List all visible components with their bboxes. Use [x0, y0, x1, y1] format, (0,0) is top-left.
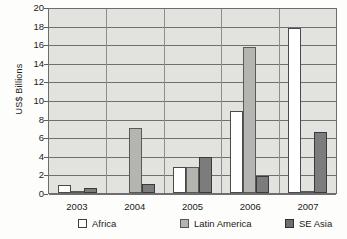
bar-africa-2007[interactable] — [288, 28, 301, 193]
plot-area — [48, 8, 337, 194]
legend-swatch-se-asia — [285, 219, 294, 228]
bar-groups — [49, 9, 336, 193]
bar-seasia-2005[interactable] — [199, 157, 212, 193]
y-tick-label: 10 — [26, 96, 44, 105]
y-tick-label: 16 — [26, 40, 44, 49]
legend-label-se-asia: SE Asia — [299, 218, 332, 229]
bar-africa-2006[interactable] — [230, 111, 243, 193]
y-tick-label: 14 — [26, 59, 44, 68]
y-tick-mark — [44, 64, 48, 65]
legend-swatch-africa — [78, 219, 87, 228]
y-tick-mark — [44, 82, 48, 83]
legend-label-latin-america: Latin America — [194, 218, 252, 229]
bar-seasia-2007[interactable] — [314, 132, 327, 193]
bar-group — [221, 9, 278, 193]
y-tick-label: 8 — [26, 115, 44, 124]
x-tick-label: 2006 — [221, 196, 279, 212]
bar-group — [49, 9, 106, 193]
bar-seasia-2004[interactable] — [142, 184, 155, 193]
bar-africa-2005[interactable] — [173, 167, 186, 193]
bar-latin-2003[interactable] — [71, 191, 84, 193]
y-tick-label: 20 — [26, 3, 44, 12]
y-tick-mark — [44, 194, 48, 195]
bar-seasia-2006[interactable] — [256, 176, 269, 193]
y-tick-label: 12 — [26, 77, 44, 86]
bar-latin-2007[interactable] — [301, 191, 314, 193]
y-tick-mark — [44, 175, 48, 176]
legend-item-africa: Africa — [78, 218, 116, 229]
bar-latin-2006[interactable] — [243, 47, 256, 193]
x-tick-label: 2007 — [279, 196, 337, 212]
bar-africa-2003[interactable] — [58, 185, 71, 193]
y-tick-mark — [44, 8, 48, 9]
chart-figure: US$ Billions 20181614121086420 200320042… — [0, 0, 347, 239]
y-tick-label: 0 — [26, 189, 44, 198]
y-tick-label: 18 — [26, 22, 44, 31]
x-tick-label: 2004 — [106, 196, 164, 212]
legend-label-africa: Africa — [92, 218, 116, 229]
y-tick-mark — [44, 101, 48, 102]
y-axis-title: US$ Billions — [14, 44, 24, 134]
gridline — [49, 194, 336, 195]
bar-group — [279, 9, 336, 193]
x-tick-label: 2003 — [48, 196, 106, 212]
legend-item-latin-america: Latin America — [180, 218, 252, 229]
y-tick-label: 4 — [26, 152, 44, 161]
y-tick-mark — [44, 45, 48, 46]
x-axis-ticks: 20032004200520062007 — [48, 196, 337, 212]
bar-group — [164, 9, 221, 193]
bar-latin-2004[interactable] — [129, 128, 142, 193]
y-tick-mark — [44, 157, 48, 158]
legend-swatch-latin-america — [180, 219, 189, 228]
x-tick-label: 2005 — [164, 196, 222, 212]
y-tick-mark — [44, 120, 48, 121]
bar-group — [106, 9, 163, 193]
y-tick-label: 6 — [26, 133, 44, 142]
y-tick-mark — [44, 138, 48, 139]
bar-latin-2005[interactable] — [186, 167, 199, 193]
chart-legend: Africa Latin America SE Asia — [0, 218, 347, 236]
legend-item-se-asia: SE Asia — [285, 218, 332, 229]
bar-seasia-2003[interactable] — [84, 188, 97, 193]
y-tick-mark — [44, 27, 48, 28]
y-tick-label: 2 — [26, 170, 44, 179]
